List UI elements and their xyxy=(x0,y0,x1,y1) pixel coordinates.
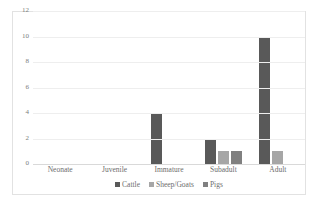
bar[interactable] xyxy=(231,151,242,164)
x-axis-tick-label: Adult xyxy=(251,166,305,174)
y-axis-tick-label: 6 xyxy=(9,84,29,91)
x-axis-tick-label: Juvenile xyxy=(87,166,141,174)
x-axis-tick-label: Immature xyxy=(142,166,196,174)
gridline xyxy=(33,37,305,38)
y-axis-tick-label: 12 xyxy=(9,7,29,14)
gridline xyxy=(33,11,305,12)
legend-label: Cattle xyxy=(122,181,140,189)
bar[interactable] xyxy=(272,151,283,164)
y-axis-tick-label: 10 xyxy=(9,33,29,40)
legend-swatch-icon xyxy=(203,182,208,187)
legend-entry[interactable]: Cattle xyxy=(115,181,140,189)
x-axis-tick-labels: NeonateJuvenileImmatureSubadultAdult xyxy=(33,166,305,174)
bar[interactable] xyxy=(205,139,216,165)
legend-swatch-icon xyxy=(115,182,120,187)
gridline xyxy=(33,88,305,89)
legend-label: Sheep/Goats xyxy=(156,181,194,189)
bar[interactable] xyxy=(218,151,229,164)
gridline xyxy=(33,62,305,63)
y-axis-tick-label: 8 xyxy=(9,58,29,65)
y-axis-tick-label: 0 xyxy=(9,160,29,167)
y-axis-tick-label: 4 xyxy=(9,109,29,116)
plot-area: 024681012 xyxy=(33,11,305,164)
chart-legend: CattleSheep/GoatsPigs xyxy=(33,181,305,189)
bar[interactable] xyxy=(259,37,270,165)
legend-entry[interactable]: Sheep/Goats xyxy=(149,181,194,189)
gridline xyxy=(33,139,305,140)
gridline xyxy=(33,113,305,114)
y-axis-tick-label: 2 xyxy=(9,135,29,142)
legend-swatch-icon xyxy=(149,182,154,187)
x-axis-tick-label: Subadult xyxy=(196,166,250,174)
legend-label: Pigs xyxy=(210,181,223,189)
x-axis-tick-label: Neonate xyxy=(33,166,87,174)
legend-entry[interactable]: Pigs xyxy=(203,181,223,189)
